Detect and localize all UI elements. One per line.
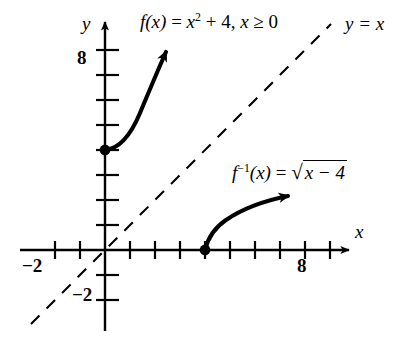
f-exponent: 2 [195,11,201,24]
y-axis-ticks [96,50,119,300]
curve-f-inverse [205,196,288,250]
radical-bar [303,160,347,161]
y-axis-name: y [82,14,90,33]
f-domain-rel: ≥ [253,11,263,32]
endpoint-dot-f-inverse [200,245,211,256]
curve-label-f-inverse: f−1(x) = √x − 4 [232,160,347,183]
x-axis-name: x [355,222,363,241]
math-graph-figure: f(x) = x2 + 4, x ≥ 0 y = x f−1(x) = √x −… [0,0,409,339]
x-tick-label-8: 8 [297,256,307,275]
finv-arg: (x) [250,162,271,183]
f-domain-var: x [240,11,248,32]
identity-line-label: y = x [345,14,384,33]
radicand: x − 4 [303,160,347,182]
graph-canvas [0,0,409,339]
f-equals: = [171,11,182,32]
x-tick-label-minus-2: −2 [22,256,42,275]
f-domain-val: 0 [269,11,279,32]
radical-sign: √ [291,160,303,184]
f-base: x [187,11,195,32]
f-plus-four: + 4, [206,11,236,32]
curve-label-f: f(x) = x2 + 4, x ≥ 0 [140,12,278,31]
finv-exponent: −1 [237,162,250,175]
finv-equals: = [276,162,287,183]
endpoint-dot-f [100,145,111,156]
y-tick-label-minus-2: −2 [72,285,92,304]
radical-group: x − 4 [303,160,347,182]
y-tick-label-8: 8 [77,48,87,67]
f-arg: (x) [145,11,166,32]
identity-y: y = x [345,13,384,34]
